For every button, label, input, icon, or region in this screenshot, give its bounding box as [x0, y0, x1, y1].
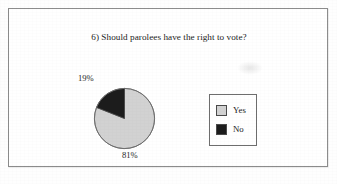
pie-label-no: 19% [78, 73, 94, 83]
legend-item-yes: Yes [216, 101, 256, 120]
legend-item-no: No [216, 120, 256, 139]
legend-label-no: No [233, 124, 244, 135]
figure-title: 6) Should parolees have the right to vot… [33, 31, 305, 43]
pie-label-yes: 81% [122, 150, 138, 160]
legend-label-yes: Yes [233, 105, 246, 116]
legend-swatch-no [216, 124, 227, 135]
legend: Yes No [209, 94, 257, 146]
figure-frame: 6) Should parolees have the right to vot… [8, 8, 328, 167]
scan-smudge [237, 61, 263, 75]
pie-chart [94, 88, 155, 149]
legend-swatch-yes [216, 105, 227, 116]
